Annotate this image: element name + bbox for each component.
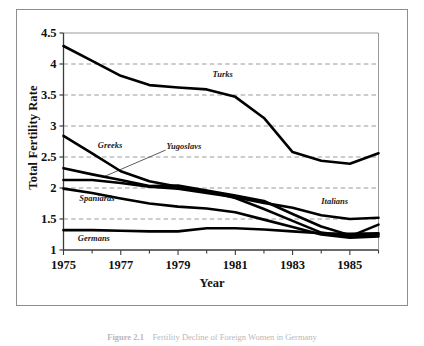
x-tick-label: 1977 [98, 259, 144, 272]
x-tick-label: 1985 [327, 259, 373, 272]
x-tick-marks [64, 250, 379, 255]
leader-line [102, 150, 165, 177]
caption-text: Fertility Decline of Foreign Women in Ge… [152, 332, 316, 342]
series-label-spaniards: Spaniards [79, 194, 114, 203]
x-tick-label: 1983 [270, 259, 316, 272]
caption-label: Figure 2.1 [107, 332, 144, 342]
x-tick-label: 1979 [155, 259, 201, 272]
gridlines [64, 33, 379, 219]
y-tick-label: 4.5 [23, 27, 57, 40]
line-chart: 11.522.533.544.5 19751977197919811983198… [0, 0, 424, 346]
caption-spacer [146, 332, 150, 342]
annotation-leader-lines [102, 150, 165, 177]
series-label-yugoslavs: Yugoslavs [167, 142, 202, 151]
series-label-greeks: Greeks [98, 141, 123, 150]
figure-root: 11.522.533.544.5 19751977197919811983198… [0, 0, 424, 346]
x-axis-title: Year [0, 276, 424, 291]
x-tick-label: 1975 [41, 259, 87, 272]
y-axis-title: Total Fertility Rate [26, 58, 41, 218]
x-tick-label: 1981 [212, 259, 258, 272]
series-line-greeks [64, 136, 379, 236]
series-label-germans: Germans [78, 234, 110, 243]
figure-caption: Figure 2.1 Fertility Decline of Foreign … [0, 332, 424, 346]
series-label-turks: Turks [212, 70, 232, 79]
chart-canvas [0, 0, 424, 346]
series-label-italians: Italians [321, 197, 348, 206]
y-tick-label: 1 [23, 244, 57, 257]
